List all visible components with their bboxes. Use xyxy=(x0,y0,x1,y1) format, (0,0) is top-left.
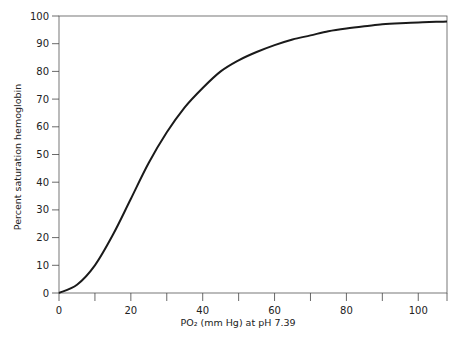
y-axis-label: Percent saturation hemoglobin xyxy=(12,84,23,230)
oxygen-dissociation-chart: 0102030405060708090100 020406080100 PO₂ … xyxy=(0,0,459,347)
y-tick-label: 0 xyxy=(43,288,49,299)
y-axis: 0102030405060708090100 xyxy=(30,11,59,299)
x-tick-label: 0 xyxy=(56,305,62,316)
y-tick-label: 100 xyxy=(30,11,49,22)
y-tick-label: 90 xyxy=(36,38,49,49)
plot-frame xyxy=(59,16,447,293)
y-tick-label: 70 xyxy=(36,94,49,105)
x-tick-label: 40 xyxy=(196,305,209,316)
y-tick-label: 10 xyxy=(36,260,49,271)
y-tick-label: 50 xyxy=(36,149,49,160)
y-tick-label: 40 xyxy=(36,177,49,188)
x-axis: 020406080100 xyxy=(56,293,447,316)
x-tick-label: 100 xyxy=(409,305,428,316)
x-tick-label: 60 xyxy=(268,305,281,316)
x-tick-label: 80 xyxy=(340,305,353,316)
saturation-curve xyxy=(59,22,447,294)
y-tick-label: 80 xyxy=(36,66,49,77)
x-tick-label: 20 xyxy=(124,305,137,316)
plot-border xyxy=(59,16,447,293)
y-tick-label: 60 xyxy=(36,121,49,132)
x-axis-label: PO₂ (mm Hg) at pH 7.39 xyxy=(180,317,295,328)
y-tick-label: 20 xyxy=(36,232,49,243)
y-tick-label: 30 xyxy=(36,204,49,215)
